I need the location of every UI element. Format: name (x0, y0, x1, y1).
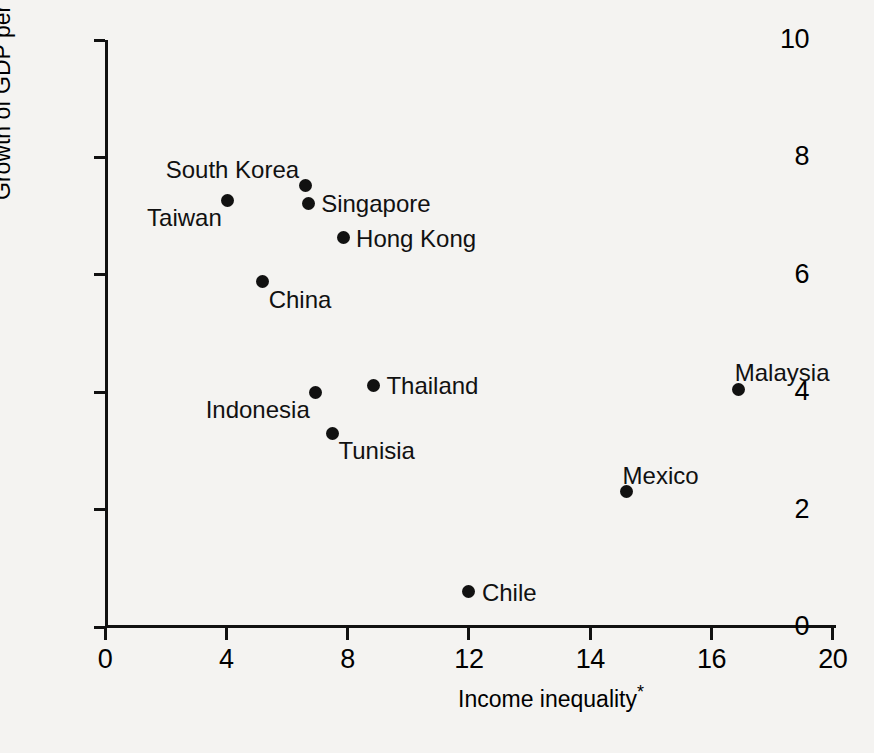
y-tick-label: 8 (794, 143, 809, 170)
x-axis-title-text: Income inequality (458, 686, 637, 712)
y-tick-mark (94, 39, 105, 42)
data-point-label: Malaysia (735, 361, 830, 385)
data-point-marker[interactable] (326, 427, 339, 440)
data-point-label: Singapore (321, 192, 430, 216)
plot-area: 1086420 04812141620 South KoreaSingapore… (105, 40, 833, 627)
x-tick-label: 16 (697, 646, 726, 673)
y-tick-label: 0 (794, 613, 809, 640)
y-axis-line (105, 40, 108, 627)
data-point-label: Thailand (386, 374, 478, 398)
data-point-label: Taiwan (147, 206, 222, 230)
y-tick-mark (94, 391, 105, 394)
y-tick-label: 6 (794, 261, 809, 288)
data-point-marker[interactable] (337, 231, 350, 244)
x-axis-title: Income inequality* (458, 688, 644, 711)
data-point-label: Tunisia (338, 439, 414, 463)
x-axis-line (105, 625, 836, 628)
data-point-marker[interactable] (462, 585, 475, 598)
y-tick-mark (94, 508, 105, 511)
data-point-label: Indonesia (206, 398, 310, 422)
y-tick-label: 10 (780, 26, 809, 53)
data-point-label: Mexico (623, 464, 699, 488)
data-point-label: South Korea (166, 158, 299, 182)
x-tick-mark (225, 628, 228, 640)
data-point-marker[interactable] (367, 379, 380, 392)
x-tick-label: 12 (454, 646, 483, 673)
y-tick-label: 2 (794, 496, 809, 523)
data-point-marker[interactable] (302, 197, 315, 210)
x-tick-mark (710, 628, 713, 640)
x-tick-mark (346, 628, 349, 640)
x-tick-mark (104, 628, 107, 640)
x-tick-label: 0 (98, 646, 113, 673)
x-tick-label: 14 (576, 646, 605, 673)
x-tick-mark (467, 628, 470, 640)
y-axis-title: Growth of GDP per person (0, 0, 14, 200)
x-axis-title-footnote-marker: * (637, 682, 644, 702)
data-point-label: Hong Kong (356, 227, 476, 251)
data-point-label: China (269, 288, 332, 312)
data-point-label: Chile (482, 581, 537, 605)
x-tick-mark (831, 628, 834, 640)
x-tick-label: 4 (219, 646, 234, 673)
y-tick-mark (94, 273, 105, 276)
data-point-marker[interactable] (309, 386, 322, 399)
scatter-chart-figure: 1086420 04812141620 South KoreaSingapore… (0, 0, 874, 753)
x-tick-mark (589, 628, 592, 640)
data-point-marker[interactable] (299, 179, 312, 192)
x-tick-label: 20 (818, 646, 847, 673)
x-tick-label: 8 (340, 646, 355, 673)
data-point-marker[interactable] (221, 194, 234, 207)
data-point-marker[interactable] (256, 275, 269, 288)
y-tick-mark (94, 156, 105, 159)
